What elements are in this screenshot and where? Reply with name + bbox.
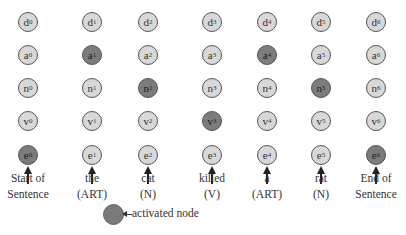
word-label: Start ofSentence — [0, 170, 63, 202]
node-d1: d1 — [82, 12, 102, 32]
node-a2: a2 — [138, 45, 158, 65]
node-n2: n2 — [138, 78, 158, 98]
word-text: Start of — [0, 170, 63, 186]
node-a6: a6 — [366, 45, 386, 65]
node-v4: v4 — [257, 111, 277, 131]
node-d4: d4 — [257, 12, 277, 32]
node-v0: v0 — [18, 111, 38, 131]
word-label: End ofSentence — [341, 170, 406, 202]
node-v6: v6 — [366, 111, 386, 131]
node-e2: e2 — [138, 145, 158, 165]
word-text: cat — [113, 170, 183, 186]
node-v2: v2 — [138, 111, 158, 131]
node-d0: d0 — [18, 12, 38, 32]
word-text: End of — [341, 170, 406, 186]
legend-arrow-icon — [124, 214, 132, 215]
node-d3: d3 — [202, 12, 222, 32]
node-a0: a0 — [18, 45, 38, 65]
node-n3: n3 — [202, 78, 222, 98]
pos-tag-text: Sentence — [341, 186, 406, 202]
pos-tag-text: Sentence — [0, 186, 63, 202]
node-n0: n0 — [18, 78, 38, 98]
node-v3: v3 — [202, 111, 222, 131]
legend-label: activated node — [132, 207, 199, 219]
word-label: cat(N) — [113, 170, 183, 202]
node-a3: a3 — [202, 45, 222, 65]
node-e1: e1 — [82, 145, 102, 165]
legend-activated-node-swatch — [103, 204, 124, 225]
node-e4: e4 — [257, 145, 277, 165]
node-d2: d2 — [138, 12, 158, 32]
node-a5: a5 — [311, 45, 331, 65]
node-e3: e3 — [202, 145, 222, 165]
node-n5: n5 — [311, 78, 331, 98]
node-d5: d5 — [311, 12, 331, 32]
node-e5: e5 — [311, 145, 331, 165]
node-a1: a1 — [82, 45, 102, 65]
node-n6: n6 — [366, 78, 386, 98]
node-v1: v1 — [82, 111, 102, 131]
node-a4: a4 — [257, 45, 277, 65]
node-d6: d6 — [366, 12, 386, 32]
node-n1: n1 — [82, 78, 102, 98]
node-v5: v5 — [311, 111, 331, 131]
node-e6: e6 — [366, 145, 386, 165]
node-n4: n4 — [257, 78, 277, 98]
pos-tag-text: (N) — [113, 186, 183, 202]
node-e0: e0 — [18, 145, 38, 165]
